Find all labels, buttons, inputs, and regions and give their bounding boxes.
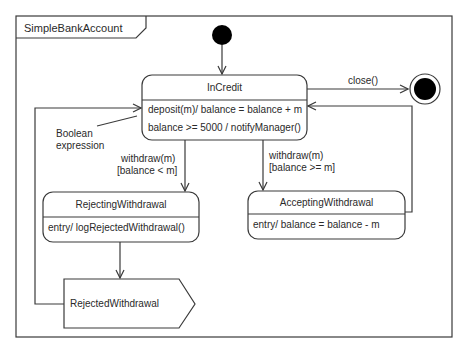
transition-trigger-reject: withdraw(m) — [121, 153, 175, 165]
annotation-text-line1: Boolean — [56, 128, 93, 140]
initial-state-icon — [212, 25, 232, 45]
annotation-text-line2: expression — [56, 140, 104, 152]
transition-label-close: close() — [348, 75, 378, 87]
transition-guard-accept: [balance >= m] — [269, 162, 335, 174]
state-name-rejecting-withdrawal: RejectingWithdrawal — [43, 199, 199, 211]
state-activity-deposit: deposit(m)/ balance = balance + m — [148, 104, 302, 116]
transition-guard-reject: [balance < m] — [117, 165, 177, 177]
state-name-accepting-withdrawal: AcceptingWithdrawal — [248, 197, 405, 209]
annotation-connector — [97, 116, 137, 126]
frame-title: SimpleBankAccount — [24, 22, 122, 34]
state-activity-balance-minus: entry/ balance = balance - m — [253, 219, 379, 231]
signal-name-rejected-withdrawal: RejectedWithdrawal — [70, 298, 159, 310]
state-name-in-credit: InCredit — [142, 82, 307, 94]
state-activity-log-rejected: entry/ logRejectedWithdrawal() — [48, 222, 185, 234]
state-activity-notify: balance >= 5000 / notifyManager() — [148, 122, 301, 134]
transition-trigger-accept: withdraw(m) — [269, 150, 323, 162]
